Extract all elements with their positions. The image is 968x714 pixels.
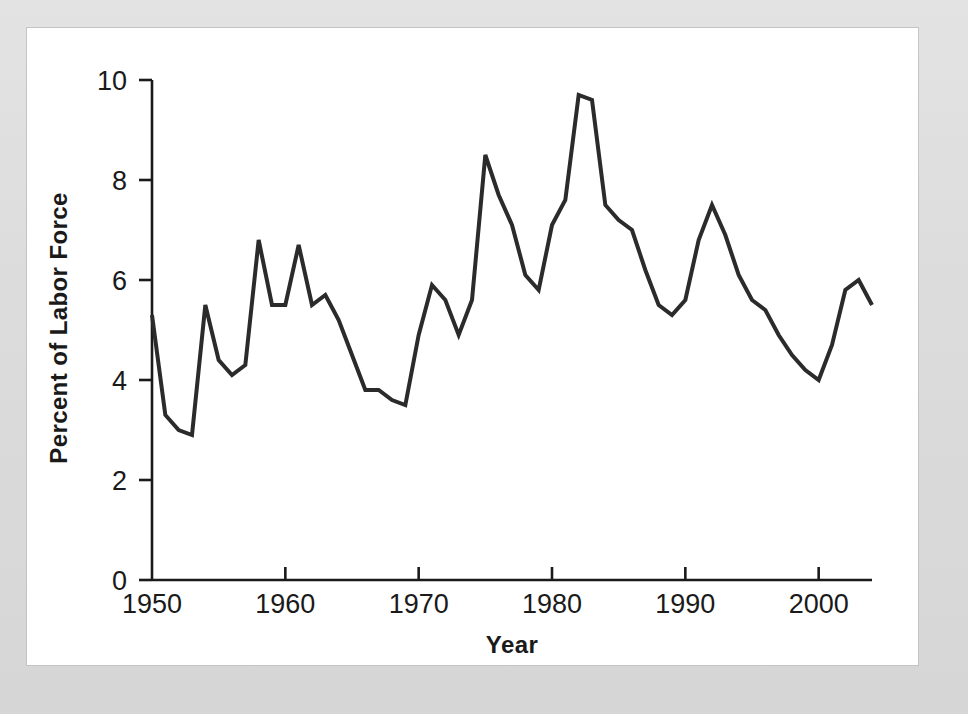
y-tick-label: 2	[112, 466, 127, 496]
y-tick-label: 8	[112, 166, 127, 196]
x-tick-label: 1950	[122, 589, 182, 619]
line-chart: 0246810 195019601970198019902000 Year Pe…	[27, 28, 918, 665]
figure-root: 0246810 195019601970198019902000 Year Pe…	[0, 0, 968, 714]
x-axis-title: Year	[486, 631, 538, 658]
unemployment-rate-series	[152, 95, 872, 435]
x-axis-ticks	[285, 567, 818, 580]
x-tick-label: 1980	[522, 589, 582, 619]
y-tick-label: 6	[112, 266, 127, 296]
y-axis-tick-labels: 0246810	[97, 66, 127, 596]
y-tick-label: 4	[112, 366, 127, 396]
y-tick-label: 10	[97, 66, 127, 96]
x-tick-label: 1970	[389, 589, 449, 619]
x-axis-tick-labels: 195019601970198019902000	[122, 589, 849, 619]
x-tick-label: 2000	[789, 589, 849, 619]
chart-panel: 0246810 195019601970198019902000 Year Pe…	[27, 28, 918, 665]
x-tick-label: 1960	[255, 589, 315, 619]
y-axis-ticks	[139, 80, 152, 580]
y-axis-title: Percent of Labor Force	[45, 192, 72, 464]
x-tick-label: 1990	[655, 589, 715, 619]
